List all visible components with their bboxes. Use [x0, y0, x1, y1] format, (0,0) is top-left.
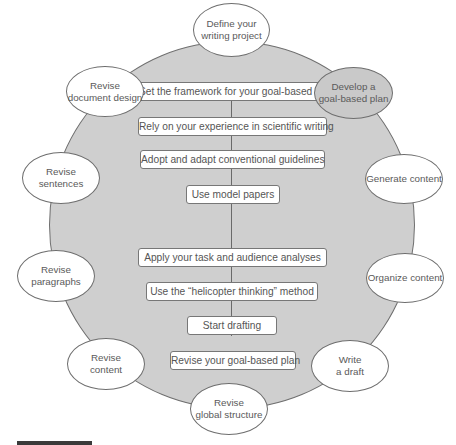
node-label: Revise: [90, 80, 120, 92]
node-label: Generate content: [366, 173, 442, 185]
node-revise-content: Revise content: [67, 338, 145, 390]
node-label: global structure: [196, 409, 263, 421]
node-revise-sentences: Revise sentences: [22, 152, 100, 204]
node-label: paragraphs: [31, 276, 81, 288]
node-label: Revise: [91, 352, 121, 364]
step-rely-on-experience: Rely on your experience in scientific wr…: [138, 117, 327, 136]
node-label: Develop a: [331, 81, 375, 93]
step-apply-analyses: Apply your task and audience analyses: [138, 248, 327, 267]
node-label: Write: [339, 354, 362, 366]
step-revise-goal-plan: Revise your goal-based plan: [170, 351, 296, 370]
node-write-draft: Write a draft: [311, 340, 389, 392]
node-label: document design: [68, 92, 143, 104]
node-label: Organize content: [368, 272, 443, 284]
node-label: goal-based plan: [319, 93, 389, 105]
node-label: sentences: [39, 178, 84, 190]
node-label: Revise: [214, 397, 244, 409]
node-develop-goal-plan: Develop a goal-based plan: [314, 67, 393, 119]
node-define-writing-project: Define your writing project: [193, 3, 270, 57]
node-generate-content: Generate content: [365, 154, 443, 204]
footer-rule: [17, 441, 92, 445]
step-use-model-papers: Use model papers: [186, 185, 280, 204]
node-label: a draft: [336, 366, 364, 378]
node-revise-paragraphs: Revise paragraphs: [17, 250, 95, 302]
step-helicopter-thinking: Use the “helicopter thinking” method: [146, 282, 318, 301]
node-label: writing project: [201, 30, 261, 42]
node-revise-global-structure: Revise global structure: [190, 383, 268, 435]
step-start-drafting: Start drafting: [187, 316, 277, 335]
node-label: Revise: [41, 264, 71, 276]
node-organize-content: Organize content: [366, 253, 444, 303]
step-adopt-guidelines: Adopt and adapt conventional guidelines: [140, 150, 325, 169]
node-label: content: [90, 364, 122, 376]
step-set-framework: Set the framework for your goal-based pl…: [138, 82, 327, 101]
node-revise-document-design: Revise document design: [66, 66, 144, 117]
node-label: Revise: [46, 166, 76, 178]
node-label: Define your: [206, 18, 256, 30]
